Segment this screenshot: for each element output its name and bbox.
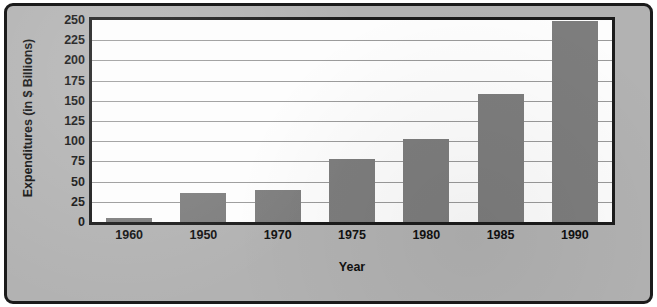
bar-series [92,20,612,222]
y-tick-label: 100 [43,134,85,148]
bar [180,193,226,222]
y-tick-label: 175 [43,74,85,88]
bar-chart: Expenditures (in $ Billions) 02550751001… [7,6,653,304]
bar [403,139,449,222]
y-axis-tick-labels: 0255075100125150175200225250 [43,17,85,225]
chart-page: Expenditures (in $ Billions) 02550751001… [0,0,657,307]
bar [478,94,524,222]
x-axis-title: Year [89,260,615,274]
y-tick-label: 150 [43,94,85,108]
bar [552,21,598,222]
x-tick-label: 1950 [190,228,218,242]
x-tick-label: 1960 [115,228,143,242]
x-tick-label: 1970 [264,228,292,242]
y-tick-label: 125 [43,114,85,128]
y-tick-label: 0 [43,215,85,229]
chart-frame: Expenditures (in $ Billions) 02550751001… [4,3,653,304]
bar [329,159,375,222]
x-tick-label: 1980 [412,228,440,242]
y-tick-label: 225 [43,33,85,47]
bar [255,190,301,222]
y-tick-label: 200 [43,53,85,67]
y-tick-label: 75 [43,154,85,168]
y-axis-title: Expenditures (in $ Billions) [21,18,35,218]
y-tick-label: 250 [43,13,85,27]
x-tick-label: 1975 [338,228,366,242]
y-tick-label: 25 [43,195,85,209]
x-axis-tick-labels: 1960195019701975198019851990 [89,228,615,248]
y-tick-label: 50 [43,175,85,189]
bar [106,218,152,222]
plot-area [89,17,615,225]
x-tick-label: 1990 [561,228,589,242]
x-tick-label: 1985 [487,228,515,242]
